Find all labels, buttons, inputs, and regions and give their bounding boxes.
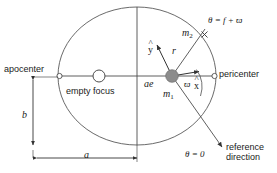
reference-direction-line2: direction (226, 152, 264, 162)
semi-major-label: a (84, 150, 89, 161)
reference-angle-label: θ = 0 (185, 150, 205, 159)
longitude-of-pericenter-label: ϖ (184, 80, 190, 89)
focal-distance-label: ae (144, 79, 153, 90)
empty-focus-marker (93, 70, 105, 82)
apocenter-label: apocenter (4, 65, 44, 74)
primary-body-marker (166, 70, 179, 83)
empty-focus-label: empty focus (66, 87, 115, 96)
semi-minor-label: b (22, 110, 27, 121)
secondary-mass-subscript: 2 (189, 32, 193, 40)
primary-mass-subscript: 1 (170, 93, 174, 101)
pericenter-marker (212, 73, 217, 78)
orbit-diagram: apocenter pericenter empty focus ae r b … (0, 0, 277, 173)
primary-mass-label: m1 (163, 89, 174, 101)
reference-direction-label: reference direction (226, 142, 264, 162)
reference-direction-line1: reference (226, 142, 264, 152)
pericenter-label: pericenter (219, 70, 259, 79)
secondary-body-marker (202, 32, 208, 38)
true-longitude-label: θ = f + ϖ (208, 16, 242, 25)
apocenter-marker (57, 73, 62, 78)
radius-label: r (172, 46, 176, 57)
y-unit-vector-label: ^y (148, 44, 153, 55)
secondary-mass-label: m2 (182, 28, 193, 40)
x-unit-vector-label: ^x (194, 80, 199, 91)
